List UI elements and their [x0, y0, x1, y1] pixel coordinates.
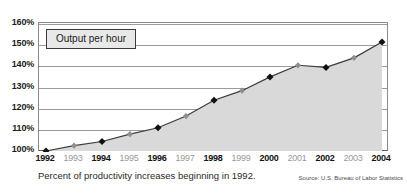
legend-label: Output per hour: [56, 33, 126, 44]
x-axis-tick-label: 2001: [287, 153, 306, 163]
x-axis-tick-label: 1996: [147, 153, 166, 163]
x-axis-tick-label: 1994: [91, 153, 110, 163]
x-axis-tick-label: 1992: [35, 153, 54, 163]
y-axis-tick-label: 110%: [0, 124, 34, 133]
x-axis-tick-label: 2002: [315, 153, 334, 163]
x-axis-tick-label: 2003: [343, 153, 362, 163]
x-axis-tick-label: 2000: [259, 153, 278, 163]
legend-box: Output per hour: [46, 29, 136, 49]
x-axis-tick-label: 1997: [175, 153, 194, 163]
x-axis-tick-label: 2004: [371, 153, 390, 163]
y-axis-tick-label: 120%: [0, 103, 34, 112]
y-axis-tick-label: 130%: [0, 82, 34, 91]
area-fill: [46, 42, 382, 151]
x-axis-tick-label: 1998: [203, 153, 222, 163]
chart-source: Source: U.S. Bureau of Labor Statistics: [299, 174, 403, 182]
x-axis-tick-label: 1999: [231, 153, 250, 163]
x-axis: 1992199319941995199619971998199920002001…: [38, 153, 388, 165]
chart-caption: Percent of productivity increases beginn…: [38, 170, 256, 181]
data-point-marker: [43, 148, 50, 153]
x-axis-tick-label: 1993: [63, 153, 82, 163]
y-axis-tick-label: 100%: [0, 145, 34, 154]
y-axis-tick-label: 160%: [0, 18, 34, 27]
y-axis-tick-label: 140%: [0, 60, 34, 69]
y-axis: 100%110%120%130%140%150%160%: [0, 0, 34, 193]
x-axis-tick-label: 1995: [119, 153, 138, 163]
chart-figure: 100%110%120%130%140%150%160% Output per …: [0, 0, 407, 193]
y-axis-tick-label: 150%: [0, 39, 34, 48]
